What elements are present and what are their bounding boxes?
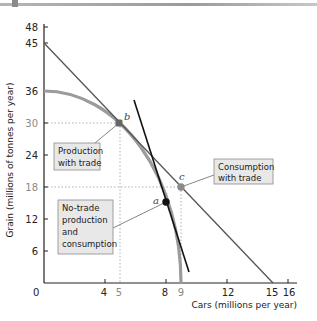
x-tick-15: 15 [266,287,279,298]
point-c-label: c [179,171,185,182]
y-tick-30: 30 [25,118,38,129]
y-tick-36: 36 [25,86,38,97]
svg-text:Consumption: Consumption [218,162,274,172]
point-b-label: b [124,111,130,122]
x-axis-title: Cars (millions per year) [192,300,298,310]
svg-text:with trade: with trade [58,158,101,168]
y-tick-18: 18 [25,182,38,193]
y-tick-labels: 48 45 36 30 24 18 12 6 [25,22,38,257]
point-c-marker [177,183,184,190]
svg-text:and: and [62,227,78,237]
x-tick-5: 5 [116,287,122,298]
svg-text:Production: Production [58,146,103,156]
y-tick-6: 6 [32,246,38,257]
y-tick-12: 12 [25,214,38,225]
svg-text:with trade: with trade [218,173,261,183]
y-tick-48: 48 [25,22,38,33]
x-tick-12: 12 [222,287,235,298]
point-b-marker [116,120,123,127]
x-tick-8: 8 [162,287,168,298]
point-a-marker [162,198,169,205]
svg-text:No-trade: No-trade [62,203,99,213]
y-tick-45: 45 [25,38,38,49]
callout-consumption-with-trade: Consumption with trade [214,159,274,184]
x-tick-4: 4 [101,287,107,298]
svg-text:consumption: consumption [62,239,117,249]
callout-production-with-trade: Production with trade [54,143,103,170]
origin-label: 0 [33,287,39,298]
x-tick-labels: 4 5 8 9 12 15 16 [101,287,296,298]
y-axis-title: Grain (millions of tonnes per year) [5,83,15,238]
x-tick-16: 16 [283,287,296,298]
ppf-trade-chart: 48 45 36 30 24 18 12 6 0 4 5 8 9 12 15 1… [0,0,317,321]
point-a-label: a [153,195,159,206]
callout-no-trade: No-trade production and consumption [58,200,117,254]
y-tick-24: 24 [25,150,38,161]
x-tick-9: 9 [178,287,184,298]
svg-text:production: production [62,215,108,225]
